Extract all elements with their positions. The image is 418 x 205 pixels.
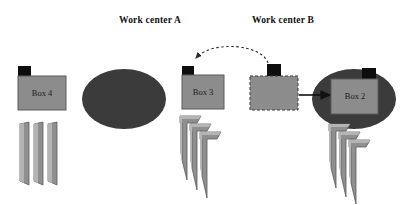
diagram-canvas: Work center A Work center B Box 4 Box 3 — [0, 0, 418, 205]
blade-straight-highlight — [48, 123, 52, 183]
process-flow-diagram: Work center A Work center B Box 4 Box 3 — [0, 0, 418, 205]
blade-straight-highlight — [34, 123, 38, 183]
header-work-center-a: Work center A — [119, 15, 181, 25]
blades-box-4-group — [20, 122, 57, 185]
blade-hooked — [200, 132, 221, 198]
box-in-transit-group[interactable] — [250, 64, 298, 110]
header-work-center-b: Work center B — [252, 15, 315, 25]
box-in-transit-tab-icon — [267, 64, 281, 77]
machine-a-ellipse — [82, 69, 166, 129]
blade-hooked — [349, 140, 370, 204]
box-2-label: Box 2 — [345, 91, 366, 101]
box-2-tab-icon — [362, 68, 376, 80]
blade-straight-highlight — [20, 123, 24, 183]
box-3-group[interactable]: Box 3 — [182, 66, 224, 109]
box-3-label: Box 3 — [193, 87, 214, 97]
box-4-group[interactable]: Box 4 — [18, 66, 66, 110]
blades-box-2-group — [329, 124, 370, 204]
arrow-return-dashed — [196, 46, 268, 63]
box-in-transit-body[interactable] — [250, 76, 298, 110]
blades-box-3-group — [180, 116, 221, 198]
box-4-label: Box 4 — [32, 88, 53, 98]
